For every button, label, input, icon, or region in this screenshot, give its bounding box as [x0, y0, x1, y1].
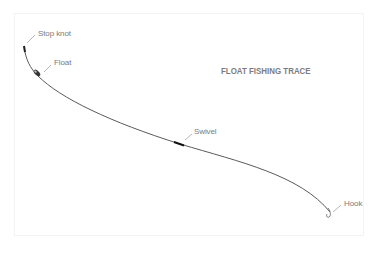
swivel-icon — [174, 142, 184, 146]
diagram-title: FLOAT FISHING TRACE — [221, 66, 311, 76]
hook-leader — [333, 205, 341, 212]
swivel-label: Swivel — [194, 127, 217, 136]
float-label: Float — [54, 58, 71, 67]
stop-knot-leader — [27, 35, 35, 43]
stop-knot-icon — [24, 46, 25, 52]
swivel-leader — [185, 134, 192, 140]
stop-knot-label: Stop knot — [38, 29, 71, 38]
hook-label: Hook — [344, 199, 362, 208]
float-leader — [44, 65, 51, 72]
fishing-trace-diagram — [0, 0, 380, 257]
float-icon — [33, 69, 42, 78]
